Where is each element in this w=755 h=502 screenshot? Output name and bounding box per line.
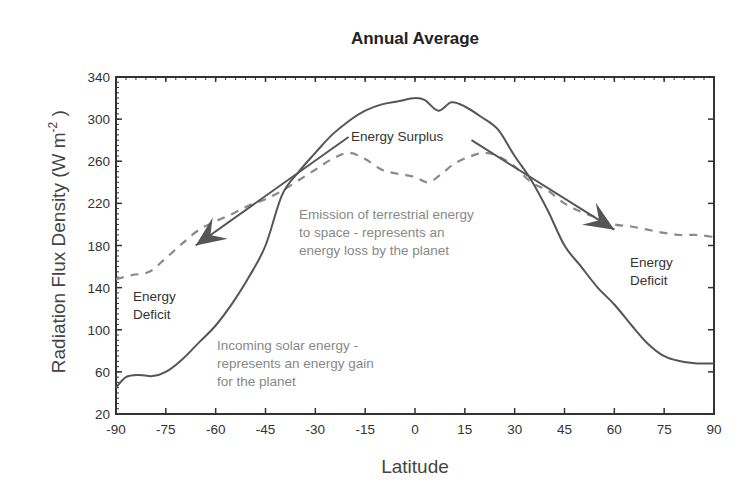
x-tick-label: -45 — [256, 422, 276, 437]
y-tick-label: 180 — [87, 239, 110, 254]
emission-line-1: Emission of terrestrial energy — [299, 206, 474, 224]
x-tick-label: 15 — [457, 422, 472, 437]
x-tick-label: -30 — [306, 422, 326, 437]
right-arrow-shaft — [471, 140, 614, 230]
deficit-right-line-2: Deficit — [630, 272, 673, 290]
incoming-line-3: for the planet — [217, 373, 374, 391]
x-tick-label: 90 — [706, 422, 721, 437]
emission-line-2: to space - represents an — [299, 224, 474, 242]
y-tick-label: 220 — [87, 196, 110, 211]
y-tick-label: 20 — [95, 407, 110, 422]
y-axis-label-close: ) — [48, 110, 69, 122]
annotation-incoming: Incoming solar energy - represents an en… — [217, 337, 374, 391]
incoming-line-2: represents an energy gain — [217, 355, 374, 373]
y-tick-label: 100 — [87, 323, 110, 338]
deficit-left-line-1: Energy — [133, 288, 176, 306]
y-axis-label-exponent: -2 — [46, 122, 60, 133]
x-tick-label: 30 — [507, 422, 522, 437]
y-axis-label: Radiation Flux Density (W m-2 ) — [46, 72, 69, 412]
right-arrowhead-icon — [582, 203, 614, 230]
y-axis-label-text: Radiation Flux Density (W m — [48, 132, 69, 373]
y-tick-label: 340 — [87, 70, 110, 85]
x-axis-label: Latitude — [116, 456, 714, 478]
y-tick-label: 140 — [87, 281, 110, 296]
x-tick-label: -90 — [106, 422, 126, 437]
chart-title: Annual Average — [0, 29, 755, 49]
incoming-line-1: Incoming solar energy - — [217, 337, 374, 355]
emission-line-3: energy loss by the planet — [299, 242, 474, 260]
x-tick-label: -15 — [355, 422, 375, 437]
annotation-emission: Emission of terrestrial energy to space … — [299, 206, 474, 260]
x-tick-label: 60 — [607, 422, 622, 437]
y-tick-label: 60 — [95, 365, 110, 380]
annotation-energy-deficit-left: Energy Deficit — [133, 288, 176, 324]
y-tick-label: 300 — [87, 112, 110, 127]
x-tick-label: 45 — [557, 422, 572, 437]
x-tick-label: -60 — [206, 422, 226, 437]
annotation-energy-surplus: Energy Surplus — [351, 128, 443, 146]
left-arrowhead-icon — [196, 218, 228, 246]
y-tick-label: 260 — [87, 154, 110, 169]
deficit-left-line-2: Deficit — [133, 306, 176, 324]
annotation-energy-deficit-right: Energy Deficit — [630, 254, 673, 290]
x-tick-label: 0 — [411, 422, 419, 437]
x-tick-label: 75 — [657, 422, 672, 437]
x-tick-label: -75 — [156, 422, 176, 437]
deficit-right-line-1: Energy — [630, 254, 673, 272]
